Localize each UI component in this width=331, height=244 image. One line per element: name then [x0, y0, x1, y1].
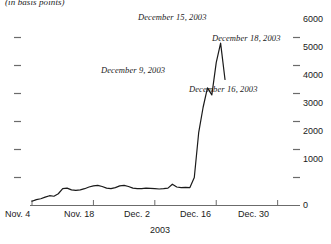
x-tick-label-nov-18: Nov. 18: [64, 209, 94, 219]
annotation-december-16: December 16, 2003: [189, 84, 258, 94]
chart-plot-area: [0, 0, 331, 244]
y-tick-label-2000: 2000: [303, 126, 323, 136]
y-tick-label-5000: 5000: [303, 42, 323, 52]
y-tick-label-0: 0: [303, 200, 308, 210]
annotation-december-15: December 15, 2003: [138, 12, 207, 22]
x-axis-ticks: [32, 200, 278, 206]
x-tick-label-dec-2: Dec. 2: [124, 209, 150, 219]
x-axis-title: 2003: [150, 225, 170, 235]
x-tick-label-dec-30: Dec. 30: [238, 209, 269, 219]
annotation-december-18: December 18, 2003: [212, 33, 281, 43]
annotation-december-9: December 9, 2003: [101, 65, 165, 75]
chart-container: (in basis points) 6000 5000 4000 3000 20…: [0, 0, 331, 244]
y-tick-label-3000: 3000: [303, 98, 323, 108]
right-axis-ticks: [293, 38, 300, 178]
y-tick-label-6000: 6000: [303, 14, 323, 24]
left-axis-ticks: [14, 38, 21, 178]
y-tick-label-1000: 1000: [303, 154, 323, 164]
x-tick-label-nov-4: Nov. 4: [5, 209, 30, 219]
x-tick-label-dec-16: Dec. 16: [180, 209, 211, 219]
y-tick-label-4000: 4000: [303, 70, 323, 80]
